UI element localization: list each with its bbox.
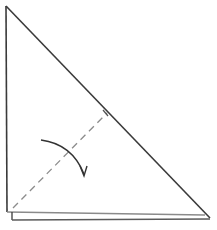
bottom-edge-inner xyxy=(7,212,205,215)
arrowhead-icon xyxy=(80,166,87,176)
origami-diagram xyxy=(0,0,217,230)
hypotenuse-edge xyxy=(6,6,210,218)
valley-fold-line xyxy=(13,113,107,208)
fold-arrow-icon xyxy=(41,140,84,174)
bottom-edge-outer xyxy=(12,219,210,220)
left-edge xyxy=(6,6,7,212)
